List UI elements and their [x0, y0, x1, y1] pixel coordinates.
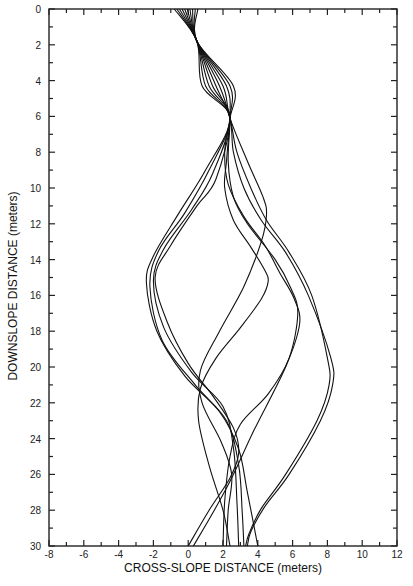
x-axis-title: CROSS-SLOPE DISTANCE (meters)	[124, 561, 322, 575]
y-tick-label: 14	[30, 255, 42, 266]
y-tick-label: 26	[30, 469, 42, 480]
y-axis-ticks	[49, 9, 397, 546]
x-tick-label: -8	[45, 549, 54, 560]
plot-frame	[49, 9, 397, 546]
plot-border	[49, 9, 397, 546]
x-tick-label: 4	[255, 549, 261, 560]
y-tick-label: 8	[35, 147, 41, 158]
x-tick-label: 6	[290, 549, 296, 560]
x-tick-label: 8	[325, 549, 331, 560]
trajectory-line	[194, 9, 268, 546]
x-tick-label: 0	[185, 549, 191, 560]
x-tick-label: 12	[391, 549, 403, 560]
x-tick-label: 2	[220, 549, 226, 560]
x-axis-ticks	[49, 9, 397, 546]
x-axis-tick-labels: -8-6-4-2024681012	[45, 549, 403, 560]
y-tick-label: 4	[35, 76, 41, 87]
x-tick-label: -6	[79, 549, 88, 560]
y-tick-label: 6	[35, 111, 41, 122]
y-tick-label: 30	[30, 541, 42, 552]
x-tick-label: -2	[149, 549, 158, 560]
y-tick-label: 24	[30, 434, 42, 445]
trajectory-line	[155, 9, 239, 546]
y-tick-label: 28	[30, 505, 42, 516]
y-axis-title: DOWNSLOPE DISTANCE (meters)	[6, 191, 20, 380]
y-tick-label: 20	[30, 362, 42, 373]
x-tick-label: 10	[357, 549, 369, 560]
y-tick-label: 22	[30, 398, 42, 409]
y-tick-label: 0	[35, 4, 41, 15]
x-tick-label: -4	[114, 549, 123, 560]
trajectory-lines	[146, 9, 334, 546]
y-tick-label: 10	[30, 183, 42, 194]
trajectory-line	[146, 9, 257, 546]
trajectory-line	[153, 9, 238, 546]
y-tick-label: 12	[30, 219, 42, 230]
y-tick-label: 2	[35, 40, 41, 51]
y-axis-tick-labels: 024681012141618202224262830	[30, 4, 42, 552]
y-tick-label: 18	[30, 326, 42, 337]
y-tick-label: 16	[30, 290, 42, 301]
trajectory-chart: -8-6-4-2024681012 0246810121416182022242…	[0, 0, 413, 586]
